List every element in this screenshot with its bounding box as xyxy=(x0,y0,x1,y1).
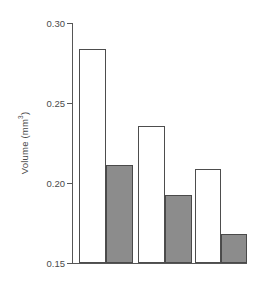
bar-filled-3 xyxy=(221,234,247,263)
y-tick-label: 0.30 xyxy=(47,18,66,29)
chart-figure: Volume (mm3) 0.30 0.25 0.20 0.15 0.10 0. xyxy=(0,0,259,290)
y-tick-mark xyxy=(67,23,72,24)
y-tick-mark xyxy=(67,103,72,104)
y-tick-mark xyxy=(67,263,72,264)
y-axis-title-exponent: 3 xyxy=(17,115,24,119)
bar-open-1 xyxy=(79,49,106,263)
x-axis-line xyxy=(72,263,247,264)
y-tick-label: 0.15 xyxy=(47,258,66,269)
y-axis-title-container: Volume (mm3) xyxy=(12,0,36,290)
y-tick-label: 0.25 xyxy=(47,98,66,109)
y-axis-title-main: Volume (mm xyxy=(19,119,30,174)
y-tick-label: 0.20 xyxy=(47,178,66,189)
plot-area: 0.30 0.25 0.20 0.15 0.10 0.05 xyxy=(72,23,247,263)
bar-open-2 xyxy=(138,126,165,263)
y-axis-line xyxy=(72,23,73,264)
bar-filled-1 xyxy=(106,165,133,263)
y-tick-mark xyxy=(67,183,72,184)
y-axis-title: Volume (mm3) xyxy=(19,112,30,175)
bar-open-3 xyxy=(195,169,221,263)
bar-filled-2 xyxy=(165,195,192,263)
y-axis-title-tail: ) xyxy=(19,112,30,115)
